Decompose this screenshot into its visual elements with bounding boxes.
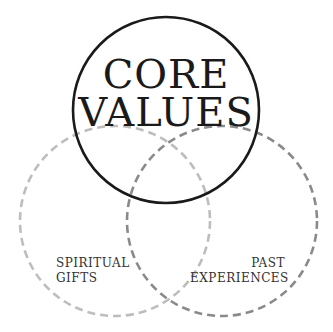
- spiritual-gifts-label-line1: SPIRITUAL: [56, 256, 130, 271]
- past-experiences-label-line1: PAST: [190, 256, 285, 271]
- core-values-label-line1: CORE: [73, 54, 259, 94]
- core-values-label-line2: VALUES: [73, 92, 259, 132]
- spiritual-gifts-circle: [20, 126, 210, 316]
- spiritual-gifts-label: SPIRITUAL GIFTS: [56, 256, 130, 286]
- past-experiences-label-line2: EXPERIENCES: [190, 271, 285, 286]
- past-experiences-circle: [127, 126, 317, 316]
- spiritual-gifts-label-line2: GIFTS: [56, 271, 130, 286]
- past-experiences-label: PAST EXPERIENCES: [190, 256, 285, 286]
